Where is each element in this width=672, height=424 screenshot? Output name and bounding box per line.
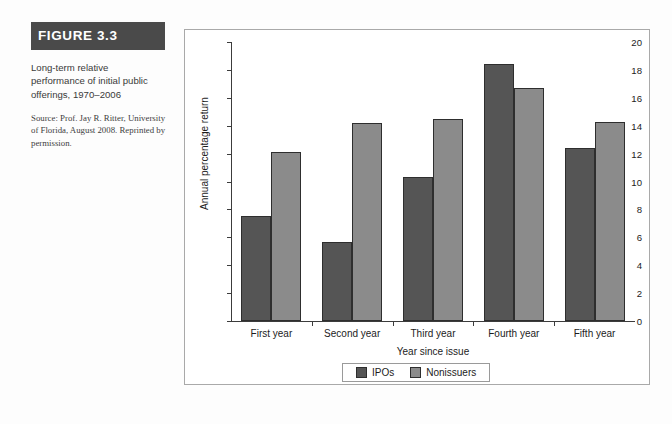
bar-ipos bbox=[484, 64, 514, 321]
figure-number-banner: FIGURE 3.3 bbox=[31, 22, 165, 50]
bar-nonissuers bbox=[433, 119, 463, 321]
bar-nonissuers bbox=[271, 152, 301, 321]
chart-legend: IPOs Nonissuers bbox=[342, 363, 490, 382]
x-axis-title: Year since issue bbox=[231, 346, 635, 357]
bar-group bbox=[565, 42, 625, 321]
x-tick-mark bbox=[393, 321, 394, 326]
bar-nonissuers bbox=[595, 122, 625, 321]
legend-item-nonissuers: Nonissuers bbox=[410, 367, 476, 378]
legend-label-ipos: IPOs bbox=[372, 367, 394, 378]
x-tick-mark bbox=[473, 321, 474, 326]
x-tick-mark bbox=[554, 321, 555, 326]
bar-ipos bbox=[403, 177, 433, 321]
bar-group bbox=[484, 42, 544, 321]
bar-nonissuers bbox=[352, 123, 382, 321]
legend-label-nonissuers: Nonissuers bbox=[426, 367, 476, 378]
figure-source-note: Source: Prof. Jay R. Ritter, University … bbox=[31, 112, 166, 149]
legend-item-ipos: IPOs bbox=[356, 367, 394, 378]
bar-group bbox=[322, 42, 382, 321]
bar-group bbox=[241, 42, 301, 321]
bar-ipos bbox=[322, 242, 352, 322]
caption-column: FIGURE 3.3 Long-term relative performanc… bbox=[31, 22, 165, 149]
figure-root: FIGURE 3.3 Long-term relative performanc… bbox=[0, 0, 672, 424]
x-tick-mark bbox=[312, 321, 313, 326]
bar-nonissuers bbox=[514, 88, 544, 321]
bar-ipos bbox=[565, 148, 595, 321]
legend-swatch-nonissuers bbox=[410, 367, 421, 378]
plot-wrapper: Annual percentage return 024681012141618… bbox=[185, 30, 649, 384]
chart-panel: Annual percentage return 024681012141618… bbox=[184, 29, 650, 385]
y-axis-title: Annual percentage return bbox=[199, 79, 210, 229]
legend-swatch-ipos bbox=[356, 367, 367, 378]
x-axis-line bbox=[231, 321, 635, 322]
x-tick-label: Fifth year bbox=[540, 328, 650, 339]
bar-ipos bbox=[241, 216, 271, 321]
figure-caption: Long-term relative performance of initia… bbox=[31, 61, 164, 101]
plot-area bbox=[231, 42, 635, 321]
bar-group bbox=[403, 42, 463, 321]
